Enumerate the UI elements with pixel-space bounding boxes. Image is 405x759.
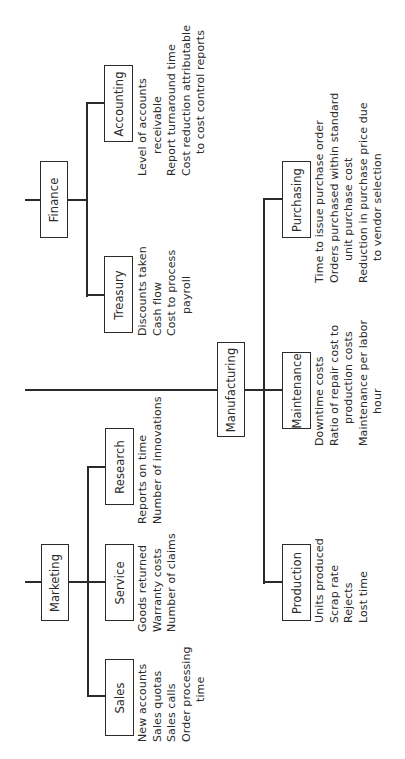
manufacturing-stub-line — [25, 389, 218, 391]
production-metrics: Units produced Scrap rate Rejects Lost t… — [313, 538, 371, 623]
production-connector — [263, 581, 283, 583]
research-label: Research — [113, 440, 127, 494]
marketing-label: Marketing — [48, 553, 62, 611]
metric-item: Scrap rate — [328, 538, 343, 623]
metric-item: Sales quotas — [151, 646, 166, 742]
treasury-box: Treasury — [104, 256, 133, 333]
finance-stem-line — [86, 102, 88, 297]
metric-item: hour — [371, 320, 386, 446]
metric-item: Goods returned — [136, 533, 151, 632]
service-box: Service — [105, 544, 134, 621]
purchasing-metrics: Time to issue purchase order Orders purc… — [313, 93, 386, 283]
accounting-connector — [86, 102, 105, 104]
finance-label: Finance — [47, 177, 61, 222]
marketing-stem-line — [87, 466, 89, 697]
metric-item: payroll — [180, 246, 195, 336]
finance-stub-line — [25, 199, 41, 201]
maintenance-label: Maintenance — [290, 353, 304, 428]
metric-item: Reduction in purchase price due — [357, 93, 372, 283]
marketing-stub-line — [25, 581, 42, 583]
manufacturing-stem-line — [263, 198, 265, 584]
metric-item: Units produced — [313, 538, 328, 623]
sales-connector — [87, 695, 106, 697]
metric-item: Maintenance per labor — [357, 320, 372, 446]
purchasing-label: Purchasing — [290, 168, 304, 232]
metric-item: Cash flow — [151, 246, 166, 336]
manufacturing-label: Manufacturing — [224, 347, 238, 432]
maintenance-metrics: Downtime costs Ratio of repair cost to p… — [313, 320, 386, 446]
marketing-box: Marketing — [41, 544, 69, 621]
finance-box: Finance — [40, 161, 68, 238]
metric-item: Order processing — [180, 646, 195, 742]
metric-item: Orders purchased within standard — [328, 93, 343, 283]
metric-item: Cost to process — [165, 246, 180, 336]
treasury-label: Treasury — [112, 270, 126, 320]
metric-item: Level of accounts — [136, 25, 151, 176]
metric-item: Discounts taken — [136, 246, 151, 336]
metric-item: to cost control reports — [194, 25, 209, 176]
research-box: Research — [105, 428, 134, 505]
accounting-label: Accounting — [112, 71, 126, 136]
metric-item: Lost time — [357, 538, 372, 623]
manufacturing-box: Manufacturing — [217, 342, 245, 437]
production-box: Production — [282, 544, 311, 621]
metric-item: Rejects — [342, 538, 357, 623]
metric-item: Number of innovations — [151, 396, 166, 524]
treasury-connector — [86, 294, 105, 296]
metric-item: Cost reduction attributable — [180, 25, 195, 176]
metric-item: production costs — [342, 320, 357, 446]
purchasing-connector — [263, 198, 283, 200]
metric-item: Sales calls — [165, 646, 180, 742]
accounting-box: Accounting — [104, 65, 133, 142]
research-connector — [87, 466, 106, 468]
purchasing-box: Purchasing — [282, 161, 311, 238]
treasury-metrics: Discounts taken Cash flow Cost to proces… — [136, 246, 194, 336]
maintenance-box: Maintenance — [282, 352, 311, 429]
metric-item: Ratio of repair cost to — [328, 320, 343, 446]
sales-metrics: New accounts Sales quotas Sales calls Or… — [136, 646, 209, 742]
metric-item: receivable — [151, 25, 166, 176]
service-metrics: Goods returned Warranty costs Number of … — [136, 533, 180, 632]
accounting-metrics: Level of accounts receivable Report turn… — [136, 25, 209, 176]
metric-item: Time to issue purchase order — [313, 93, 328, 283]
service-label: Service — [113, 561, 127, 604]
metric-item: unit purchase cost — [342, 93, 357, 283]
metric-item: New accounts — [136, 646, 151, 742]
metric-item: Downtime costs — [313, 320, 328, 446]
metric-item: Warranty costs — [151, 533, 166, 632]
finance-out-line — [67, 199, 87, 201]
production-label: Production — [290, 551, 304, 613]
metric-item: Reports on time — [136, 396, 151, 524]
metric-item: Report turnaround time — [165, 25, 180, 176]
metric-item: time — [194, 646, 209, 742]
sales-box: Sales — [105, 659, 134, 736]
metric-item: to vendor selection — [371, 93, 386, 283]
metric-item: Number of claims — [165, 533, 180, 632]
research-metrics: Reports on time Number of innovations — [136, 396, 165, 524]
sales-label: Sales — [113, 682, 127, 713]
